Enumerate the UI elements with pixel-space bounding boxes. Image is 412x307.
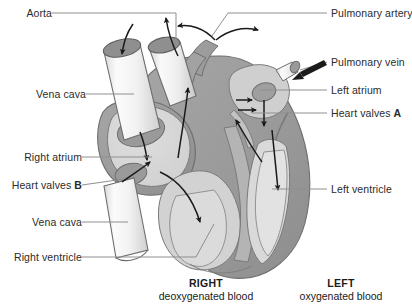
label-right-atrium: Right atrium: [0, 151, 82, 163]
label-pulmonary-vein-text: Pulmonary vein: [331, 56, 405, 68]
label-vena-cava-upper: Vena cava: [0, 88, 86, 100]
label-heart-valves-a-text: Heart valves: [331, 107, 394, 119]
label-heart-valves-b-text: Heart valves: [12, 179, 75, 191]
heart-diagram: Aorta Vena cava Right atrium Heart valve…: [0, 0, 412, 307]
caption-right: RIGHT deoxygenated blood: [136, 277, 276, 303]
label-heart-valves-b-suffix: B: [74, 179, 82, 191]
label-vena-cava-lower: Vena cava: [0, 216, 82, 228]
caption-left-side: LEFT: [271, 277, 411, 290]
label-right-ventricle-text: Right ventricle: [14, 251, 82, 263]
label-right-ventricle: Right ventricle: [0, 251, 82, 263]
arrow-pulm-artery-curve-left: [178, 26, 215, 40]
label-aorta: Aorta: [0, 7, 52, 19]
label-pulmonary-vein: Pulmonary vein: [331, 56, 405, 68]
label-left-atrium-text: Left atrium: [331, 84, 382, 96]
leader-aorta: [52, 13, 176, 40]
label-heart-valves-b: Heart valves B: [0, 179, 82, 191]
label-left-atrium: Left atrium: [331, 84, 382, 96]
label-aorta-text: Aorta: [26, 7, 52, 19]
label-heart-valves-a-suffix: A: [394, 107, 402, 119]
caption-left-subtitle: oxygenated blood: [271, 290, 411, 303]
label-left-ventricle-text: Left ventricle: [331, 183, 392, 195]
arrow-pulm-artery-curve-right: [216, 28, 258, 40]
right-ventricle-inner-outline: [170, 190, 227, 266]
heart-body: [52, 13, 327, 278]
label-vena-cava-upper-text: Vena cava: [36, 88, 86, 100]
caption-left: LEFT oxygenated blood: [271, 277, 411, 303]
caption-right-subtitle: deoxygenated blood: [136, 290, 276, 303]
label-left-ventricle: Left ventricle: [331, 183, 392, 195]
caption-right-side: RIGHT: [136, 277, 276, 290]
label-right-atrium-text: Right atrium: [24, 151, 82, 163]
label-pulmonary-artery-text: Pulmonary artery: [331, 7, 412, 19]
label-vena-cava-lower-text: Vena cava: [32, 216, 82, 228]
label-pulmonary-artery: Pulmonary artery: [331, 7, 412, 19]
label-heart-valves-a: Heart valves A: [331, 107, 401, 119]
